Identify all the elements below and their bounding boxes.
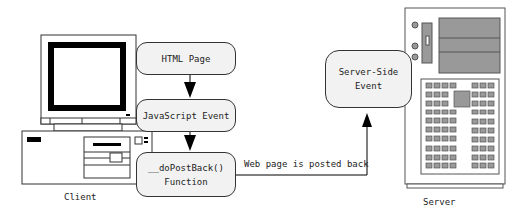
client-computer-icon	[22, 35, 152, 184]
node-server-event-line1: Server-Side	[339, 65, 399, 79]
client-label: Client	[64, 192, 97, 202]
diagram-graphics	[0, 0, 525, 217]
node-server-event-line2: Event	[355, 79, 382, 93]
node-javascript-event-label: JavaScript Event	[143, 109, 230, 123]
node-dopostback-line1: __doPostBack()	[148, 161, 224, 175]
edge-label-posted-back: Web page is posted back	[244, 159, 369, 169]
node-dopostback-line2: Function	[164, 175, 207, 189]
node-html-page-label: HTML Page	[162, 52, 211, 66]
node-javascript-event: JavaScript Event	[136, 99, 236, 132]
node-html-page: HTML Page	[136, 42, 236, 75]
node-dopostback-function: __doPostBack() Function	[136, 152, 236, 197]
server-label: Server	[423, 197, 456, 207]
node-server-side-event: Server-Side Event	[325, 50, 412, 108]
